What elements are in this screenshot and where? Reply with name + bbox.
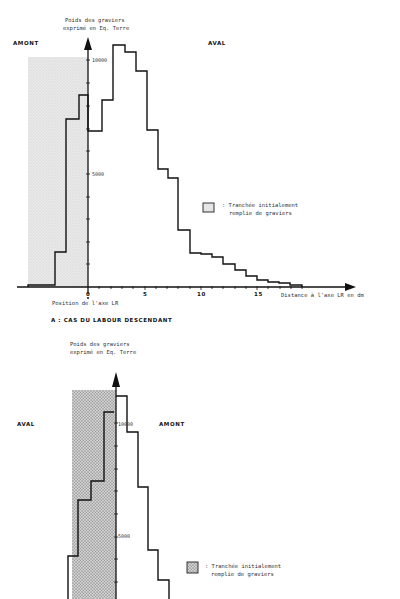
bottom-right-label: AMONT [159, 421, 185, 428]
bottom-y-axis-arrow [112, 372, 120, 387]
top-caption: A : CAS DU LABOUR DESCENDANT [51, 317, 172, 324]
top-x-axis-arrow [345, 283, 356, 291]
top-origin-label: Position de l'axe LR [52, 300, 118, 307]
bottom-y-tick-5000: 5000 [118, 533, 130, 540]
top-y-tick-5000: 5000 [92, 171, 104, 178]
top-x-tick-15: 15 [254, 291, 263, 298]
top-y-tick-10000: 10000 [92, 57, 107, 64]
top-legend-line1: : Tranchée initialement [222, 202, 298, 209]
top-x-tick-5: 5 [143, 291, 147, 298]
bottom-y-tick-10000: 10000 [118, 421, 133, 428]
top-y-axis-arrow [84, 37, 92, 50]
top-left-label: AMONT [13, 40, 39, 47]
top-right-label: AVAL [208, 40, 226, 47]
bottom-legend-line1: : Tranchée initialement [205, 563, 281, 570]
top-ylabel-line2: exprimé en Eq. Terre [63, 25, 129, 32]
top-x-tick-0: 0 [86, 291, 90, 298]
top-ylabel-line1: Poids des graviers [65, 17, 125, 24]
bottom-ylabel-line1: Poids des graviers [70, 341, 130, 348]
top-legend-line2: remplie de graviers [229, 210, 292, 217]
bottom-ylabel-line2: exprimé en Eq. Terre [70, 349, 136, 356]
bottom-trench-shading [72, 390, 116, 599]
bottom-legend-swatch [187, 562, 198, 573]
top-legend-swatch [203, 203, 214, 212]
bottom-legend-line2: remplie de graviers [211, 571, 274, 578]
bottom-chart [68, 372, 198, 599]
top-chart [17, 37, 356, 299]
bottom-left-label: AVAL [17, 421, 35, 428]
top-x-axis-label: Distance à l'axe LR en dm [281, 292, 364, 299]
top-x-tick-10: 10 [197, 291, 206, 298]
